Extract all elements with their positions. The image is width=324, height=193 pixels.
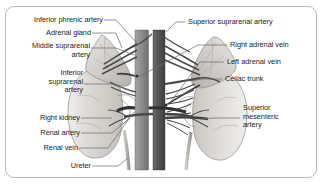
- label-inferior-phrenic-artery: Inferior phrenic artery: [8, 16, 103, 25]
- label-ureter: Ureter: [34, 162, 91, 171]
- label-celiac-trunk: Celiac trunk: [225, 75, 263, 84]
- label-inferior-suprarenal-artery-line3: artery: [8, 86, 83, 95]
- label-superior-mesenteric-artery: Superior mesenteric artery: [243, 104, 307, 130]
- label-right-kidney: Right kidney: [8, 114, 80, 123]
- label-middle-suprarenal-artery: Middle suprarenal artery: [8, 42, 90, 59]
- label-renal-vein: Renal vein: [8, 144, 78, 153]
- inferior-vena-cava-shape: [135, 30, 149, 170]
- label-superior-suprarenal-artery: Superior suprarenal artery: [188, 18, 273, 27]
- label-inferior-suprarenal-artery: Inferior suprarenal artery: [8, 69, 83, 95]
- label-superior-mesenteric-artery-line3: artery: [243, 121, 307, 130]
- label-left-adrenal-vein: Left adrenal vein: [227, 58, 281, 67]
- label-right-adrenal-vein: Right adrenal vein: [230, 41, 289, 50]
- label-renal-artery: Renal artery: [8, 129, 80, 138]
- anatomical-figure: Inferior phrenic artery Adrenal gland Mi…: [0, 0, 324, 193]
- label-middle-suprarenal-artery-line2: artery: [8, 51, 90, 60]
- label-adrenal-gland: Adrenal gland: [8, 29, 91, 38]
- abdominal-aorta-shape: [153, 30, 165, 170]
